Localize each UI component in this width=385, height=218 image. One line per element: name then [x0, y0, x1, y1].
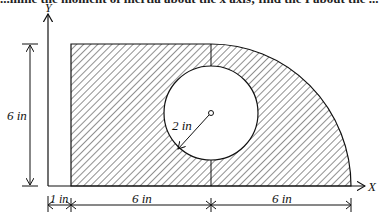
x-axis-label: X: [367, 179, 377, 194]
offset-label: 1 in: [50, 192, 68, 206]
rect-width-label: 6 in: [132, 191, 152, 206]
y-axis-label: Y: [45, 1, 53, 15]
figure: ...mine the moment of inertia about the …: [0, 0, 385, 218]
quarter-radius-label: 6 in: [272, 191, 292, 206]
hole-radius-label: 2 in: [172, 118, 192, 133]
hole-center: [209, 111, 214, 116]
width-dimensions: [48, 196, 351, 212]
height-label: 6 in: [7, 108, 27, 123]
composite-area-diagram: 2 in Y X 6 in 1 in 6 in: [0, 0, 385, 218]
